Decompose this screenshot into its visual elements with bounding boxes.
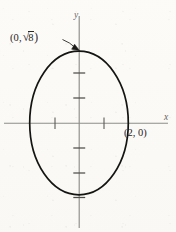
x-axis-label: x — [164, 113, 168, 123]
vertex-label: (0,√8) — [10, 31, 38, 44]
y-axis-label: y — [74, 11, 78, 21]
vertex-label-open: (0, — [10, 32, 22, 43]
x-intercept-label: (2, 0) — [124, 128, 147, 139]
figure-canvas: (0,√8) (2, 0) y x — [0, 0, 176, 232]
radical-group: √8 — [22, 31, 35, 44]
radicand: 8 — [28, 31, 34, 43]
vertex-label-close: ) — [34, 31, 38, 43]
